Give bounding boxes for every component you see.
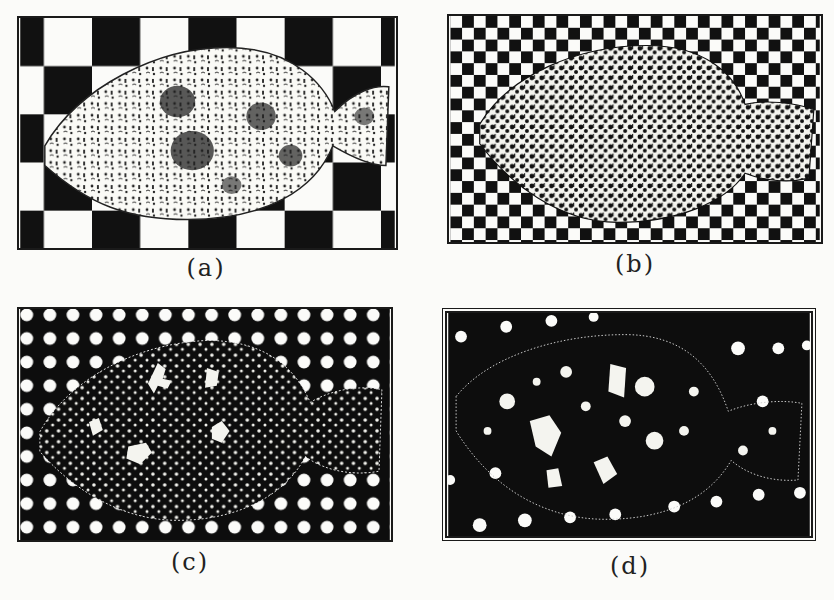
panel-d-label: (d) — [570, 552, 690, 580]
panel-d-sparse-dots — [445, 311, 813, 538]
flounder-on-sparse-dots-image — [447, 313, 811, 536]
panel-c-regular-dots — [17, 307, 393, 542]
panel-b-label: (b) — [575, 250, 695, 278]
panel-c-label: (c) — [130, 548, 250, 576]
panel-a-label: (a) — [146, 254, 266, 282]
panel-b-small-checkerboard — [447, 14, 823, 244]
flounder-on-small-checkerboard-image — [449, 16, 821, 242]
flounder-on-large-checkerboard-image — [19, 18, 396, 248]
panel-a-large-checkerboard — [17, 16, 398, 250]
flounder-on-regular-dots-image — [19, 309, 391, 540]
